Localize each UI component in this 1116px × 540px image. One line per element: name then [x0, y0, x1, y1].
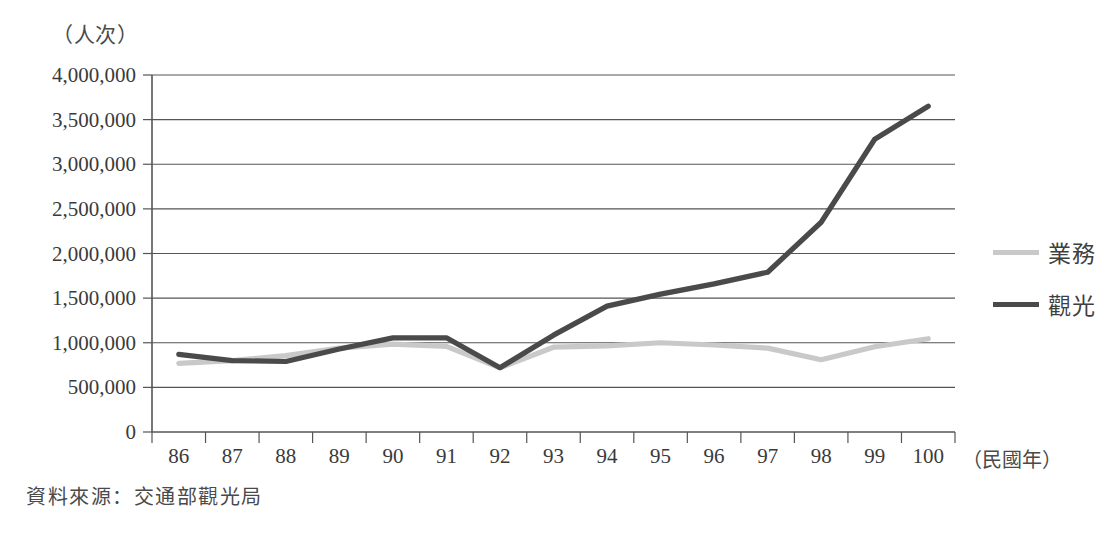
x-axis-tick-label: 98: [811, 444, 832, 469]
chart-legend: 業務觀光: [993, 226, 1113, 330]
legend-item: 觀光: [993, 278, 1113, 330]
legend-swatch: [993, 250, 1039, 255]
legend-swatch: [993, 302, 1039, 307]
x-axis-tick-label: 91: [436, 444, 457, 469]
x-axis-tick-label: 92: [489, 444, 510, 469]
x-axis-tick-label: 95: [650, 444, 671, 469]
x-axis-tick-label: 88: [275, 444, 296, 469]
chart-figure: （人次） 0500,0001,000,0001,500,0002,000,000…: [0, 0, 1116, 540]
source-note: 資料來源：交通部觀光局: [26, 481, 263, 510]
legend-item: 業務: [993, 226, 1113, 278]
x-axis-tick-label: 89: [329, 444, 350, 469]
x-axis-tick-label: 97: [757, 444, 778, 469]
x-axis-tick-label: 87: [222, 444, 243, 469]
x-axis-tick-labels: 8687888990919293949596979899100: [0, 0, 1116, 540]
legend-label: 觀光: [1048, 287, 1096, 321]
legend-label: 業務: [1048, 235, 1096, 269]
x-axis-tick-label: 94: [597, 444, 618, 469]
x-axis-tick-label: 90: [382, 444, 403, 469]
x-axis-tick-label: 100: [912, 444, 944, 469]
x-axis-tick-label: 99: [864, 444, 885, 469]
x-axis-tick-label: 93: [543, 444, 564, 469]
x-axis-title: （民國年）: [962, 444, 1062, 473]
x-axis-tick-label: 96: [704, 444, 725, 469]
x-axis-tick-label: 86: [168, 444, 189, 469]
